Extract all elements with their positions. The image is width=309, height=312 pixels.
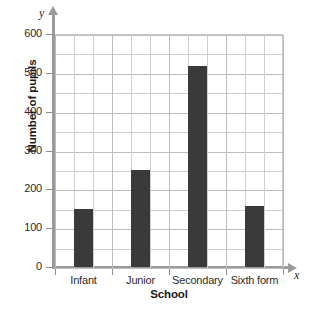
y-axis-letter: y	[39, 6, 44, 21]
bar-chart-figure: y x Number of pupils School 010020030040…	[0, 0, 309, 312]
y-axis-tick-label: 100	[2, 221, 42, 233]
x-axis-tick-label: Infant	[55, 274, 112, 286]
x-axis-title: School	[55, 288, 283, 300]
y-axis-tick-label: 500	[2, 66, 42, 78]
y-axis-tick-label: 300	[2, 144, 42, 156]
gridline-vertical	[207, 35, 208, 268]
y-axis-tick	[46, 73, 53, 74]
gridline-vertical	[264, 35, 265, 268]
bar-secondary	[188, 66, 207, 267]
x-axis-tick-label: Junior	[112, 274, 169, 286]
y-axis-tick	[46, 34, 53, 35]
y-axis-tick	[46, 112, 53, 113]
y-axis-tick-label: 600	[2, 27, 42, 39]
y-axis-tick-label: 200	[2, 182, 42, 194]
plot-area	[55, 34, 283, 267]
y-axis-tick	[46, 189, 53, 190]
x-axis-tick-label: Sixth form	[226, 274, 283, 286]
x-axis-tick-label: Secondary	[169, 274, 226, 286]
y-axis-tick	[46, 151, 53, 152]
gridline-vertical	[112, 35, 113, 268]
gridline-vertical	[283, 35, 284, 268]
gridline-vertical	[93, 35, 94, 268]
bar-junior	[131, 170, 150, 267]
gridline-vertical	[169, 35, 170, 268]
y-axis-tick	[46, 228, 53, 229]
bar-sixth-form	[245, 206, 264, 267]
x-axis-tick	[283, 269, 284, 275]
y-axis-tick-label: 400	[2, 105, 42, 117]
gridline-vertical	[55, 35, 56, 268]
y-axis-arrow-icon	[48, 6, 58, 15]
x-axis-arrow-icon	[288, 263, 297, 273]
bar-infant	[74, 209, 93, 267]
gridline-vertical	[150, 35, 151, 268]
gridline-vertical	[226, 35, 227, 268]
y-axis-tick-label: 0	[2, 260, 42, 272]
y-axis-tick	[46, 267, 53, 268]
